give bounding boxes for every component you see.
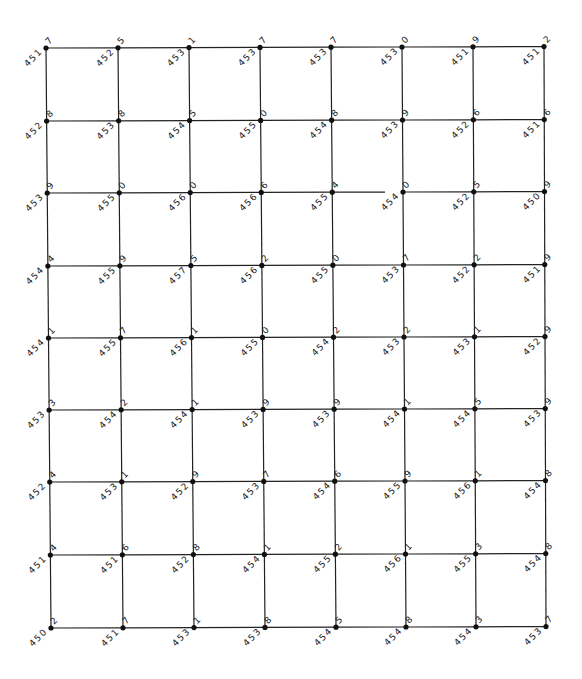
elevation-label: 4512: [520, 34, 552, 67]
elevation-whole: 453: [239, 408, 261, 430]
elevation-grid-diagram: 4517452545314537453745304519451245284538…: [0, 0, 582, 679]
survey-point-node: [473, 551, 478, 556]
elevation-label: 4537: [380, 252, 412, 285]
elevation-decimal: 9: [470, 34, 481, 45]
elevation-whole: 450: [27, 626, 49, 648]
elevation-label: 4541: [25, 325, 57, 358]
elevation-decimal: 1: [189, 397, 200, 408]
elevation-decimal: 8: [116, 108, 127, 119]
survey-point-node: [259, 190, 264, 195]
elevation-decimal: 9: [190, 469, 201, 480]
elevation-whole: 453: [236, 46, 258, 68]
elevation-whole: 453: [380, 263, 402, 285]
elevation-decimal: 8: [191, 542, 202, 553]
elevation-decimal: 1: [402, 396, 413, 407]
elevation-whole: 451: [98, 553, 120, 575]
elevation-decimal: 2: [48, 615, 59, 626]
elevation-decimal: 2: [471, 252, 482, 263]
elevation-decimal: 9: [45, 180, 56, 191]
elevation-whole: 454: [25, 336, 47, 358]
elevation-label: 4543: [452, 614, 484, 647]
elevation-label: 4526: [449, 107, 482, 141]
survey-point-node: [543, 624, 548, 629]
survey-point-node: [119, 407, 124, 412]
elevation-whole: 454: [168, 408, 190, 430]
elevation-label: 4575: [167, 253, 199, 286]
elevation-decimal: 7: [118, 325, 129, 336]
survey-point-node: [259, 263, 264, 268]
survey-point-node: [258, 118, 263, 123]
elevation-whole: 455: [95, 191, 117, 213]
survey-point-node: [471, 189, 476, 194]
elevation-label: 4545: [312, 614, 344, 647]
elevation-whole: 452: [169, 553, 191, 575]
elevation-whole: 455: [311, 553, 333, 575]
survey-point-node: [328, 45, 333, 50]
elevation-whole: 451: [521, 263, 543, 285]
elevation-whole: 451: [520, 45, 542, 67]
elevation-decimal: 5: [187, 108, 198, 119]
elevation-label: 4545: [166, 108, 198, 141]
elevation-label: 4541: [381, 396, 413, 429]
survey-point-node: [45, 190, 50, 195]
elevation-decimal: 9: [543, 396, 554, 407]
elevation-decimal: 8: [543, 468, 554, 479]
elevation-whole: 453: [521, 407, 543, 429]
elevation-label: 4548: [522, 541, 555, 575]
elevation-decimal: 9: [400, 107, 411, 118]
survey-point-node: [470, 44, 475, 49]
elevation-decimal: 5: [188, 253, 199, 264]
survey-point-node: [191, 552, 196, 557]
elevation-whole: 453: [165, 46, 187, 68]
survey-point-node: [45, 263, 50, 268]
elevation-label: 4550: [95, 180, 128, 214]
survey-point-node: [542, 334, 547, 339]
elevation-decimal: 6: [332, 468, 343, 479]
elevation-whole: 453: [310, 408, 332, 430]
elevation-whole: 454: [451, 407, 473, 429]
survey-point-node: [188, 190, 193, 195]
elevation-label: 4531: [451, 324, 483, 357]
elevation-whole: 450: [521, 190, 543, 212]
elevation-decimal: 4: [47, 469, 58, 480]
survey-point-node: [190, 407, 195, 412]
elevation-decimal: 7: [120, 615, 131, 626]
elevation-whole: 454: [24, 264, 46, 286]
elevation-decimal: 4: [48, 542, 59, 553]
survey-point-node: [543, 478, 548, 483]
survey-point-node: [332, 407, 337, 412]
elevation-whole: 451: [520, 118, 542, 140]
elevation-decimal: 2: [333, 541, 344, 552]
survey-point-node: [402, 478, 407, 483]
survey-point-node: [330, 263, 335, 268]
survey-point-node: [191, 625, 196, 630]
elevation-decimal: 8: [262, 615, 273, 626]
elevation-whole: 452: [521, 335, 543, 357]
elevation-decimal: 7: [328, 34, 339, 45]
elevation-decimal: 1: [473, 468, 484, 479]
elevation-whole: 453: [23, 191, 45, 213]
elevation-decimal: 2: [259, 253, 270, 264]
elevation-label: 4537: [240, 469, 272, 502]
survey-point-node: [47, 407, 52, 412]
elevation-whole: 454: [310, 336, 332, 358]
elevation-whole: 456: [238, 264, 260, 286]
survey-point-node: [262, 625, 267, 630]
elevation-label: 4539: [239, 397, 272, 431]
survey-point-node: [187, 118, 192, 123]
elevation-whole: 454: [308, 119, 330, 141]
elevation-label: 4542: [97, 397, 129, 430]
elevation-label: 4566: [237, 180, 270, 214]
elevation-decimal: 1: [191, 615, 202, 626]
elevation-label: 4538: [241, 615, 274, 649]
survey-point-node: [329, 118, 334, 123]
elevation-decimal: 3: [473, 614, 484, 625]
survey-point-node: [47, 479, 52, 484]
elevation-label: 4553: [452, 541, 484, 574]
elevation-label: 4546: [311, 468, 344, 502]
elevation-label: 4533: [25, 397, 57, 430]
elevation-decimal: 2: [401, 324, 412, 335]
elevation-whole: 453: [451, 335, 473, 357]
elevation-label: 4561: [382, 541, 414, 574]
survey-point-node: [120, 552, 125, 557]
